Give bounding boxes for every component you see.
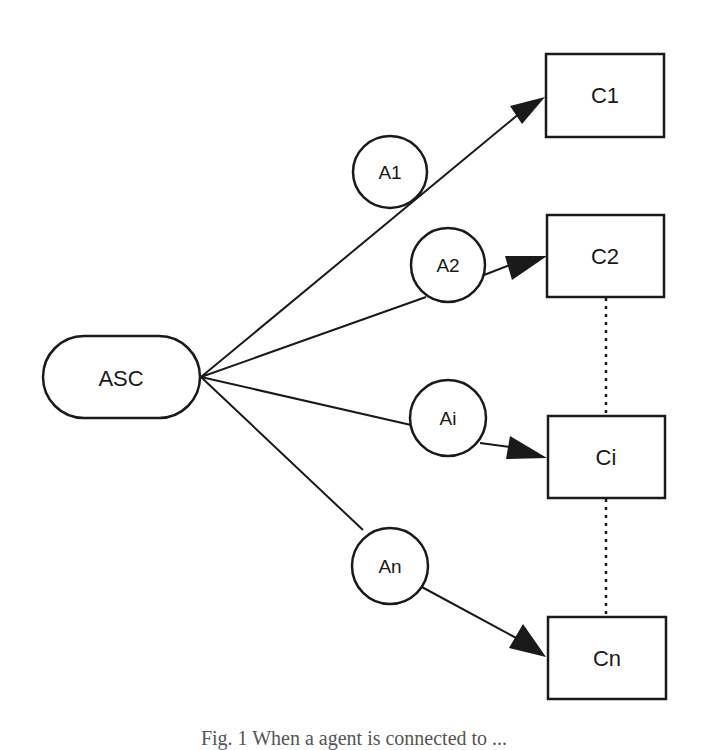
node-c2: C2 xyxy=(547,215,664,297)
edge-asc-an xyxy=(201,377,363,530)
figure-caption: Fig. 1 When a agent is connected to ... xyxy=(0,727,708,750)
a2-label: A2 xyxy=(436,255,459,276)
asc-label: ASC xyxy=(98,366,143,391)
edge-an-cn xyxy=(420,586,520,640)
c2-label: C2 xyxy=(591,244,619,269)
a1-label: A1 xyxy=(378,162,401,183)
edge-asc-ai xyxy=(201,377,411,425)
node-a1: A1 xyxy=(353,136,427,208)
edge-asc-a2 xyxy=(201,297,426,377)
edge-ai-ci xyxy=(480,443,510,447)
node-a2: A2 xyxy=(411,228,485,302)
ai-label: Ai xyxy=(440,408,457,429)
arrowhead-ci xyxy=(506,436,547,459)
c1-label: C1 xyxy=(591,83,619,108)
node-an: An xyxy=(352,528,428,604)
arrowhead-cn xyxy=(509,624,546,657)
arrowhead-c1 xyxy=(510,97,545,124)
node-c1: C1 xyxy=(546,54,664,137)
node-ai: Ai xyxy=(410,380,486,456)
edge-a2-c2 xyxy=(484,265,510,275)
ci-label: Ci xyxy=(596,445,617,470)
node-asc: ASC xyxy=(43,336,200,418)
node-ci: Ci xyxy=(548,416,665,498)
arrowhead-c2 xyxy=(505,256,547,280)
node-cn: Cn xyxy=(548,617,666,699)
cn-label: Cn xyxy=(593,646,621,671)
an-label: An xyxy=(378,556,401,577)
